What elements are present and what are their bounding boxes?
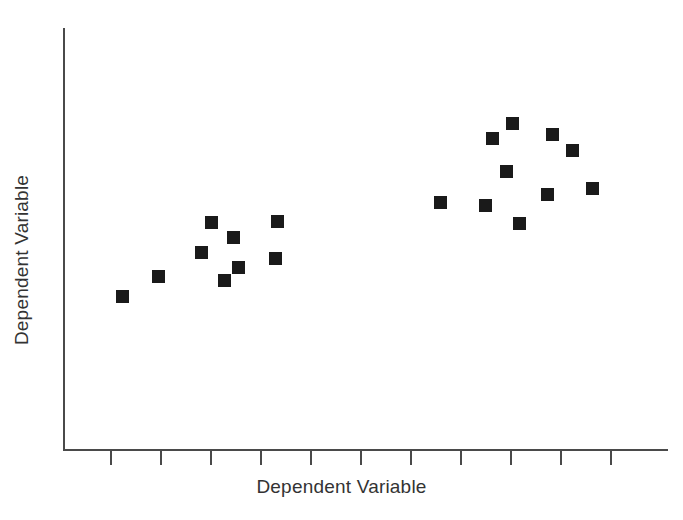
data-point <box>205 216 218 229</box>
data-point <box>232 261 245 274</box>
scatter-plot-figure: Dependent Variable Dependent Variable <box>0 0 683 520</box>
x-axis-tick-6 <box>410 451 412 465</box>
y-axis-line <box>63 28 65 450</box>
x-axis-line <box>63 449 668 451</box>
data-point <box>195 246 208 259</box>
data-point <box>434 196 447 209</box>
data-point <box>541 188 554 201</box>
data-point <box>116 290 129 303</box>
x-axis-tick-7 <box>460 451 462 465</box>
x-axis-tick-10 <box>610 451 612 465</box>
x-axis-tick-3 <box>260 451 262 465</box>
data-point <box>486 132 499 145</box>
data-point <box>513 217 526 230</box>
data-point <box>500 165 513 178</box>
data-point <box>152 270 165 283</box>
data-point <box>506 117 519 130</box>
x-axis-tick-4 <box>310 451 312 465</box>
data-point <box>546 128 559 141</box>
x-axis-tick-9 <box>560 451 562 465</box>
data-point <box>227 231 240 244</box>
x-axis-tick-1 <box>160 451 162 465</box>
data-point <box>269 252 282 265</box>
data-point <box>479 199 492 212</box>
data-point <box>218 274 231 287</box>
data-point <box>271 215 284 228</box>
x-axis-tick-2 <box>210 451 212 465</box>
data-point <box>566 144 579 157</box>
x-axis-tick-5 <box>360 451 362 465</box>
data-point <box>586 182 599 195</box>
y-axis-label: Dependent Variable <box>0 0 44 520</box>
x-axis-tick-8 <box>510 451 512 465</box>
x-axis-tick-0 <box>110 451 112 465</box>
x-axis-label: Dependent Variable <box>0 476 683 498</box>
